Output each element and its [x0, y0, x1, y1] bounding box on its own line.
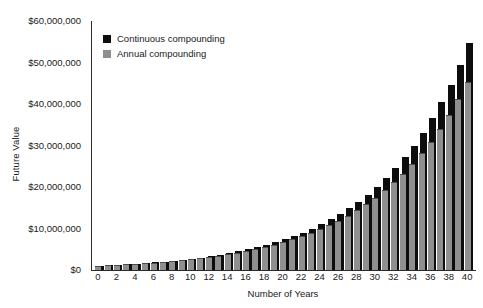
bar-group: [372, 21, 381, 270]
x-axis-tick-label: 4: [132, 272, 137, 282]
y-axis-tick-label: $60,000,000: [0, 16, 86, 26]
bar-annual-compounding: [363, 204, 369, 270]
bar-annual-compounding: [372, 198, 378, 270]
x-axis-tick-label: 28: [351, 272, 362, 282]
x-axis-tick-label: 26: [333, 272, 344, 282]
x-axis-tick-label: 32: [388, 272, 399, 282]
bar-group: [289, 21, 298, 270]
x-axis-tick-label: 14: [222, 272, 233, 282]
bar-group: [437, 21, 446, 270]
bar-group: [280, 21, 289, 270]
y-axis-tick-labels: $0$10,000,000$20,000,000$30,000,000$40,0…: [0, 0, 86, 308]
legend-swatch-icon: [103, 35, 111, 43]
bar-annual-compounding: [446, 115, 452, 270]
bar-group: [271, 21, 280, 270]
bar-annual-compounding: [160, 262, 166, 270]
x-axis-tick-label: 6: [151, 272, 156, 282]
legend-label: Continuous compounding: [117, 33, 225, 44]
x-axis-tick-label: 0: [95, 272, 100, 282]
bar-annual-compounding: [105, 265, 111, 270]
bar-annual-compounding: [455, 99, 461, 270]
y-axis-tick-label: $20,000,000: [0, 182, 86, 192]
x-axis-tick-label: 36: [425, 272, 436, 282]
bar-annual-compounding: [345, 216, 351, 270]
legend-swatch-icon: [103, 50, 111, 58]
x-axis-tick-label: 22: [296, 272, 307, 282]
y-axis-tick-label: $0: [0, 265, 86, 275]
x-axis-tick-label: 24: [314, 272, 325, 282]
y-axis-tick-label: $30,000,000: [0, 141, 86, 151]
bar-annual-compounding: [197, 258, 203, 270]
bar-annual-compounding: [132, 264, 138, 270]
bar-group: [243, 21, 252, 270]
bar-group: [428, 21, 437, 270]
x-axis-tick-labels: 0246810121416182022242628303234363840: [91, 272, 475, 286]
bar-annual-compounding: [465, 82, 471, 270]
x-axis-tick-label: 38: [443, 272, 454, 282]
bar-annual-compounding: [409, 164, 415, 270]
bar-group: [225, 21, 234, 270]
bar-annual-compounding: [169, 261, 175, 270]
bar-annual-compounding: [308, 233, 314, 270]
bar-group: [354, 21, 363, 270]
chart-legend: Continuous compoundingAnnual compounding: [103, 31, 225, 61]
legend-label: Annual compounding: [117, 48, 206, 59]
bar-annual-compounding: [142, 263, 148, 270]
bar-group: [400, 21, 409, 270]
bar-group: [299, 21, 308, 270]
x-axis-tick-label: 20: [277, 272, 288, 282]
bar-annual-compounding: [271, 245, 277, 270]
bar-annual-compounding: [95, 266, 101, 270]
future-value-bar-chart: Future Value $0$10,000,000$20,000,000$30…: [0, 0, 483, 308]
bar-annual-compounding: [428, 142, 434, 270]
bar-group: [465, 21, 474, 270]
bar-annual-compounding: [326, 225, 332, 270]
bar-group: [382, 21, 391, 270]
y-axis-tick-label: $10,000,000: [0, 224, 86, 234]
bar-annual-compounding: [400, 174, 406, 270]
x-axis-tick-label: 2: [114, 272, 119, 282]
bar-annual-compounding: [188, 259, 194, 270]
y-axis-tick-label: $40,000,000: [0, 99, 86, 109]
x-axis-tick-label: 16: [240, 272, 251, 282]
bar-group: [317, 21, 326, 270]
bar-annual-compounding: [252, 249, 258, 270]
bar-annual-compounding: [179, 260, 185, 270]
bar-annual-compounding: [225, 254, 231, 270]
bar-annual-compounding: [354, 210, 360, 270]
bar-annual-compounding: [243, 251, 249, 270]
x-axis-title: Number of Years: [91, 288, 475, 299]
x-axis-tick-label: 30: [370, 272, 381, 282]
bar-group: [363, 21, 372, 270]
bar-group: [252, 21, 261, 270]
bar-annual-compounding: [299, 236, 305, 270]
x-axis-tick-label: 18: [259, 272, 270, 282]
bar-annual-compounding: [262, 247, 268, 270]
legend-entry: Annual compounding: [103, 46, 225, 61]
bar-annual-compounding: [123, 264, 129, 270]
bar-group: [446, 21, 455, 270]
x-axis-tick-label: 34: [406, 272, 417, 282]
bar-annual-compounding: [419, 153, 425, 270]
x-axis-tick-label: 8: [169, 272, 174, 282]
x-axis-tick-label: 40: [462, 272, 473, 282]
bar-group: [409, 21, 418, 270]
bar-group: [391, 21, 400, 270]
legend-entry: Continuous compounding: [103, 31, 225, 46]
bar-group: [455, 21, 464, 270]
bar-annual-compounding: [382, 190, 388, 270]
bar-annual-compounding: [215, 256, 221, 270]
bar-annual-compounding: [289, 239, 295, 270]
bar-annual-compounding: [151, 263, 157, 270]
bar-group: [335, 21, 344, 270]
bar-annual-compounding: [437, 129, 443, 270]
x-axis-tick-label: 12: [203, 272, 214, 282]
bar-group: [308, 21, 317, 270]
bar-annual-compounding: [206, 257, 212, 270]
bar-group: [234, 21, 243, 270]
bar-group: [326, 21, 335, 270]
bar-annual-compounding: [317, 229, 323, 270]
bar-annual-compounding: [114, 265, 120, 270]
bar-annual-compounding: [280, 242, 286, 270]
bar-annual-compounding: [335, 221, 341, 270]
